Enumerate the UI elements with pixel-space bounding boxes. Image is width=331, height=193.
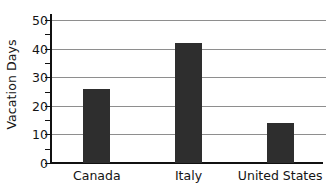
- y-axis-minor-tick: [45, 92, 52, 93]
- bar: [267, 123, 294, 163]
- y-axis-major-tick: [45, 134, 52, 135]
- x-axis-tick-label: Italy: [175, 168, 202, 183]
- y-axis-major-tick: [45, 163, 52, 164]
- y-axis-title-text: Vacation Days: [4, 39, 19, 129]
- y-axis-major-tick: [45, 106, 52, 107]
- y-axis-major-tick: [45, 49, 52, 50]
- y-axis-minor-tick: [45, 34, 52, 35]
- y-axis-minor-tick: [45, 149, 52, 150]
- bar: [175, 43, 202, 163]
- x-axis-tick-labels: CanadaItalyUnited States: [51, 168, 326, 190]
- y-axis-minor-tick: [45, 120, 52, 121]
- gridline: [51, 20, 326, 21]
- bar-chart: Vacation Days 50403020100 CanadaItalyUni…: [0, 0, 331, 193]
- x-axis-tick-label: United States: [238, 168, 323, 183]
- y-axis-major-tick: [45, 20, 52, 21]
- y-axis-title: Vacation Days: [0, 0, 22, 168]
- y-axis-major-tick: [45, 77, 52, 78]
- plot-area: [51, 20, 326, 163]
- bar: [83, 89, 110, 163]
- y-axis-minor-tick: [45, 63, 52, 64]
- y-axis-tick-labels: 50403020100: [20, 0, 48, 193]
- x-axis-tick-label: Canada: [73, 168, 121, 183]
